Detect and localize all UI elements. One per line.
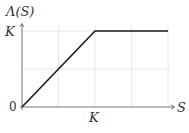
y-tick-zero: 0 — [9, 100, 17, 114]
y-axis-label: Λ(S) — [5, 4, 34, 19]
grid — [22, 25, 170, 107]
axes — [20, 24, 175, 111]
x-tick-k: K — [88, 110, 100, 125]
chart-canvas: Λ(S) S K 0 K — [0, 0, 189, 133]
x-axis-label: S — [177, 100, 186, 115]
y-tick-k: K — [4, 24, 16, 39]
